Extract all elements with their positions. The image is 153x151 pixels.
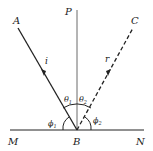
reflected-ray (77, 28, 133, 130)
label-n: N (135, 136, 146, 147)
diagram-canvas: A P C i r θ1 θ2 ϕ1 ϕ2 M B N (0, 0, 153, 151)
label-i: i (45, 56, 48, 66)
label-m: M (7, 136, 19, 147)
phi1-arc (63, 117, 69, 130)
label-a: A (12, 15, 20, 26)
label-phi2: ϕ2 (93, 116, 102, 126)
reflection-diagram: A P C i r θ1 θ2 ϕ1 ϕ2 M B N (0, 0, 153, 151)
label-c: C (131, 15, 139, 26)
incident-ray (18, 28, 77, 130)
label-b: B (72, 136, 80, 147)
phi2-arc (85, 117, 91, 130)
label-p: P (64, 6, 72, 17)
label-phi1: ϕ1 (48, 119, 57, 129)
label-r: r (105, 54, 110, 64)
label-theta1: θ1 (64, 95, 72, 105)
label-theta2: θ2 (79, 95, 87, 105)
reflected-arrow-icon (106, 69, 111, 76)
